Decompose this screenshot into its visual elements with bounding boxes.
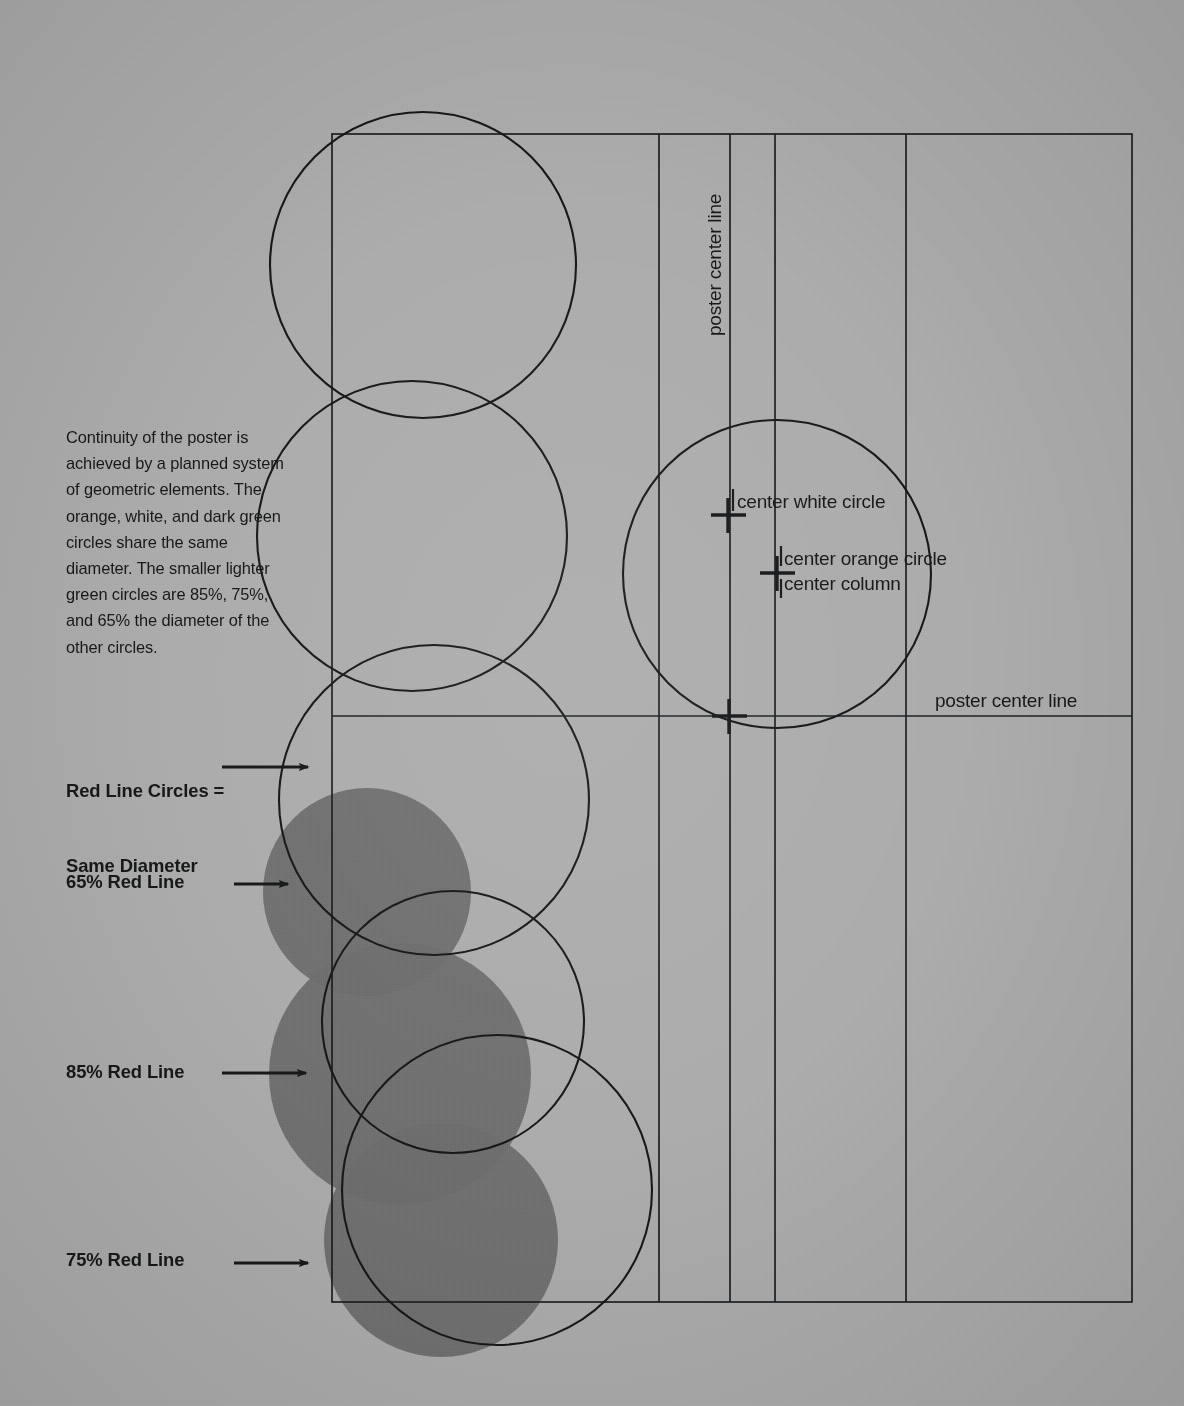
- pct-85-label: 85% Red Line: [66, 1059, 184, 1084]
- description-paragraph: Continuity of the poster is achieved by …: [66, 424, 296, 660]
- center-orange-circle-label: center orange circle: [784, 548, 947, 570]
- crosshair-group: [711, 498, 795, 734]
- pct-65-label: 65% Red Line: [66, 869, 184, 894]
- poster-center-line-vertical-label: poster center line: [704, 194, 726, 336]
- filled-circle-75: [324, 1123, 558, 1357]
- poster-center-line-horizontal-label: poster center line: [935, 690, 1077, 712]
- filled-circle-group: [263, 788, 558, 1357]
- same-diameter-label-line1: Red Line Circles =: [66, 778, 224, 803]
- center-white-circle-label: center white circle: [737, 491, 885, 513]
- pct-75-label: 75% Red Line: [66, 1247, 184, 1272]
- poster-construction-diagram: Continuity of the poster is achieved by …: [0, 0, 1184, 1406]
- center-column-label: center column: [784, 573, 901, 595]
- crosshair-center-column-baseline: [712, 699, 747, 734]
- outline-circle-1: [270, 112, 576, 418]
- outline-circle-2: [257, 381, 567, 691]
- same-diameter-label: Red Line Circles = Same Diameter: [66, 728, 224, 928]
